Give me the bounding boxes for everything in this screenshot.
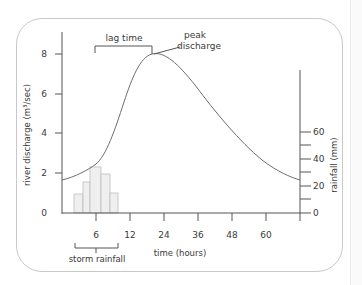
- left-axis-tick-labels: 0 2 4 6 8: [41, 49, 47, 218]
- y2-axis-label: rainfall (mm): [329, 137, 339, 192]
- rainfall-bar: [90, 167, 101, 213]
- y-axis-label: river discharge (m³/sec): [22, 84, 32, 186]
- y-tick-label: 4: [41, 128, 47, 138]
- peak-label-line1: peak: [184, 30, 207, 40]
- bottom-axis: [62, 213, 300, 221]
- x-tick-label: 24: [158, 230, 170, 240]
- lag-time-bracket: [95, 46, 152, 54]
- lag-time-label: lag time: [106, 33, 143, 43]
- x-tick-label: 60: [260, 230, 272, 240]
- right-axis: [300, 70, 311, 221]
- y-tick-label: 0: [41, 208, 47, 218]
- y2-tick-label: 40: [313, 154, 325, 164]
- x-axis-tick-labels: 6 12 24 36 48 60: [93, 230, 272, 240]
- x-tick-label: 36: [192, 230, 204, 240]
- rainfall-bar: [83, 182, 90, 213]
- x-tick-label: 12: [124, 230, 135, 240]
- right-axis-tick-labels: 0 20 40 60: [313, 127, 325, 218]
- y-tick-label: 2: [41, 168, 47, 178]
- rainfall-bar: [101, 174, 110, 213]
- y-tick-label: 6: [41, 89, 47, 99]
- peak-label-line2: discharge: [177, 41, 221, 51]
- rainfall-bar: [110, 193, 118, 213]
- y-tick-label: 8: [41, 49, 47, 59]
- y2-tick-label: 20: [313, 181, 325, 191]
- rainfall-bar: [74, 194, 83, 213]
- x-axis-label: time (hours): [154, 248, 206, 258]
- discharge-curve: [62, 54, 300, 180]
- storm-rainfall-label: storm rainfall: [69, 254, 126, 264]
- x-tick-label: 6: [93, 230, 99, 240]
- y2-tick-label: 60: [313, 127, 325, 137]
- x-tick-label: 48: [226, 230, 238, 240]
- y2-tick-label: 0: [313, 208, 319, 218]
- left-axis: [55, 32, 62, 214]
- storm-rainfall-bracket: [75, 243, 118, 253]
